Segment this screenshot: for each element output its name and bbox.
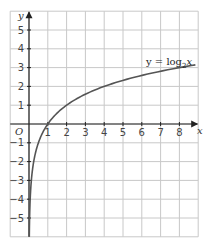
svg-text:−5: −5 <box>9 213 24 224</box>
origin-label: O <box>15 126 23 137</box>
svg-text:−2: −2 <box>9 156 24 167</box>
svg-text:1: 1 <box>18 100 24 111</box>
svg-text:6: 6 <box>139 127 145 138</box>
svg-text:5: 5 <box>18 25 24 36</box>
svg-text:−3: −3 <box>9 175 24 186</box>
svg-text:5: 5 <box>120 127 126 138</box>
log2-curve <box>29 65 195 237</box>
svg-text:4: 4 <box>18 43 24 54</box>
svg-text:−4: −4 <box>9 194 24 205</box>
svg-text:7: 7 <box>157 127 163 138</box>
svg-text:−1: −1 <box>9 137 24 148</box>
svg-text:3: 3 <box>82 127 88 138</box>
y-axis-label: y <box>17 10 24 21</box>
svg-text:3: 3 <box>18 62 24 73</box>
svg-text:4: 4 <box>101 127 107 138</box>
log2-chart: 12345678−5−4−3−2−112345 y x O y = log2x <box>0 0 212 244</box>
x-axis-label: x <box>197 125 203 136</box>
svg-text:2: 2 <box>18 81 24 92</box>
svg-text:8: 8 <box>176 127 182 138</box>
svg-text:2: 2 <box>63 127 69 138</box>
